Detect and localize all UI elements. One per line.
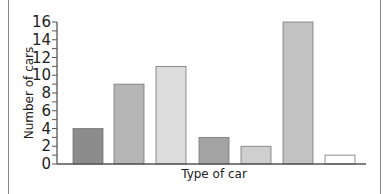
bar-chart: 0246810121416 Type of car Number of cars — [0, 0, 388, 194]
y-tick-label: 8 — [41, 84, 51, 102]
bar-7 — [325, 155, 355, 164]
y-tick-label: 0 — [41, 155, 51, 173]
x-axis-title: Type of car — [180, 167, 247, 181]
bar-5 — [241, 146, 271, 164]
bar-2 — [114, 84, 144, 164]
bar-6 — [283, 22, 313, 164]
bar-3 — [156, 66, 186, 164]
y-tick-label: 14 — [32, 31, 51, 49]
y-axis-title: Number of cars — [22, 47, 36, 140]
y-tick-label: 16 — [32, 13, 51, 31]
y-tick-label: 4 — [41, 120, 51, 138]
y-tick-label: 2 — [41, 137, 51, 155]
y-tick-label: 6 — [41, 102, 51, 120]
bar-4 — [199, 137, 229, 164]
bar-1 — [73, 129, 103, 165]
bars — [73, 22, 355, 164]
